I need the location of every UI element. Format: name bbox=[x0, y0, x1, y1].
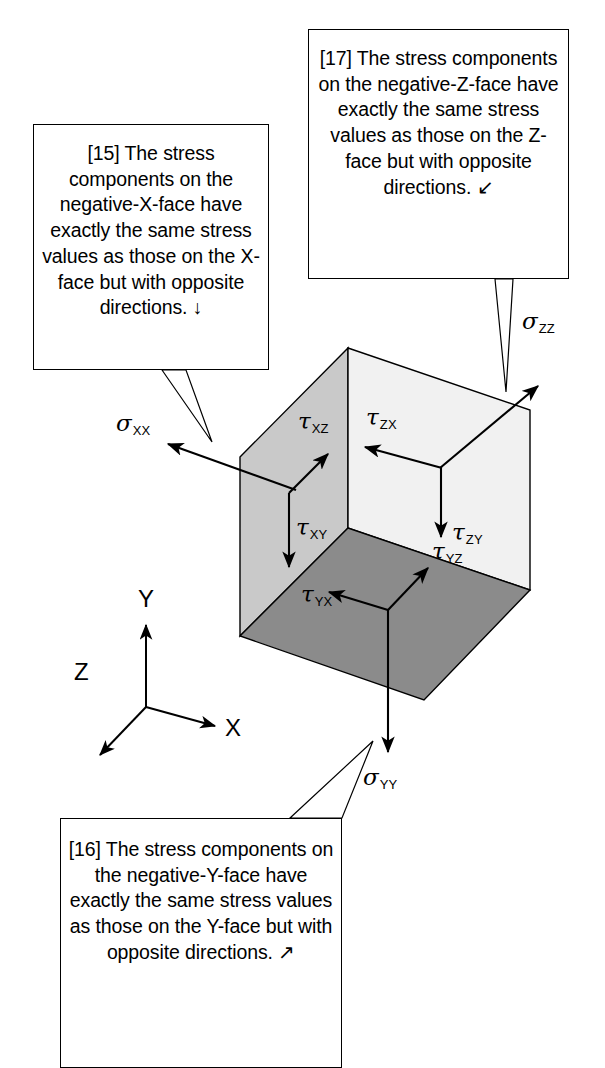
callout-16[interactable]: [16] The stress components on the negati… bbox=[60, 818, 342, 1068]
axis-x-arrow bbox=[146, 707, 215, 726]
sigma-xx-subscript: XX bbox=[132, 423, 151, 438]
label-sigma-yy: σYY bbox=[363, 766, 397, 791]
sigma-xx-symbol: σ bbox=[116, 410, 132, 436]
callout-15-tail bbox=[162, 370, 212, 442]
callout-16-text: [16] The stress components on the negati… bbox=[61, 837, 341, 966]
tau-yx-symbol: τ bbox=[301, 581, 314, 607]
tau-xy-symbol: τ bbox=[296, 514, 309, 540]
label-tau-zx: τZX bbox=[366, 406, 397, 431]
sigma-yy-symbol: σ bbox=[363, 764, 379, 790]
tau-yx-subscript: YX bbox=[314, 594, 333, 609]
label-sigma-xx: σXX bbox=[116, 412, 150, 437]
tau-zx-symbol: τ bbox=[366, 404, 379, 430]
callout-17-tail bbox=[495, 279, 513, 392]
sigma-zz-symbol: σ bbox=[522, 308, 538, 334]
label-tau-yx: τYX bbox=[301, 583, 332, 608]
callout-17-text: [17] The stress components on the negati… bbox=[309, 46, 568, 200]
tau-zx-subscript: ZX bbox=[379, 417, 397, 432]
tau-yz-symbol: τ bbox=[432, 538, 445, 564]
callout-17[interactable]: [17] The stress components on the negati… bbox=[308, 29, 569, 279]
label-tau-xy: τXY bbox=[296, 516, 327, 541]
axis-label-y: Y bbox=[138, 587, 154, 611]
tau-xz-symbol: τ bbox=[298, 408, 311, 434]
callout-15-text: [15] The stress components on the negati… bbox=[34, 141, 268, 321]
tau-zy-subscript: ZY bbox=[465, 532, 483, 547]
tau-yz-subscript: YZ bbox=[445, 551, 463, 566]
coordinate-triad bbox=[100, 625, 215, 755]
cube bbox=[240, 348, 530, 700]
label-tau-yz: τYZ bbox=[432, 540, 463, 565]
tau-xz-subscript: XZ bbox=[311, 421, 329, 436]
axis-label-z: Z bbox=[74, 660, 89, 684]
axis-z-arrow bbox=[100, 707, 146, 755]
axis-label-x: X bbox=[225, 716, 241, 740]
label-tau-xz: τXZ bbox=[298, 410, 329, 435]
callout-16-tail bbox=[290, 741, 373, 818]
tau-xy-subscript: XY bbox=[309, 527, 328, 542]
sigma-zz-subscript: ZZ bbox=[538, 321, 555, 336]
label-sigma-zz: σZZ bbox=[522, 310, 555, 335]
sigma-yy-subscript: YY bbox=[379, 777, 398, 792]
callout-15[interactable]: [15] The stress components on the negati… bbox=[33, 124, 269, 370]
